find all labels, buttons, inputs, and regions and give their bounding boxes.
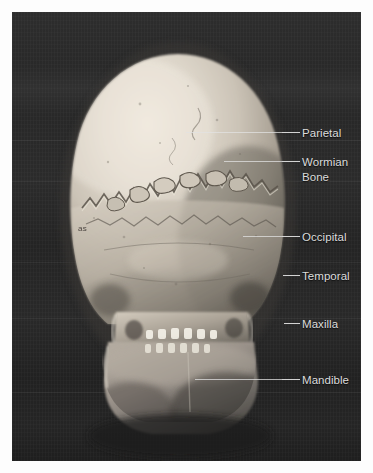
label-temporal: Temporal: [302, 269, 350, 284]
label-wormian-bone: Wormian Bone: [302, 155, 348, 185]
leader-tick-mandible: [282, 379, 300, 380]
leader-tick-maxilla: [284, 323, 300, 324]
leader-line-wormian-bone: [224, 161, 282, 162]
leader-tick-occipital: [282, 236, 300, 237]
anatomy-photograph: as ParietalWormian BoneOccipitalTemporal…: [12, 12, 361, 461]
leader-tick-wormian-bone: [282, 161, 300, 162]
label-maxilla: Maxilla: [302, 317, 338, 332]
leader-tick-temporal: [283, 275, 300, 276]
leader-tick-parietal: [282, 132, 300, 133]
leader-line-mandible: [195, 379, 282, 380]
annotation-layer: ParietalWormian BoneOccipitalTemporalMax…: [12, 12, 361, 461]
figure-root: as ParietalWormian BoneOccipitalTemporal…: [0, 0, 373, 473]
leader-line-occipital: [243, 236, 282, 237]
leader-line-parietal: [186, 132, 282, 133]
label-occipital: Occipital: [302, 230, 347, 245]
label-parietal: Parietal: [302, 126, 341, 141]
label-mandible: Mandible: [302, 373, 349, 388]
